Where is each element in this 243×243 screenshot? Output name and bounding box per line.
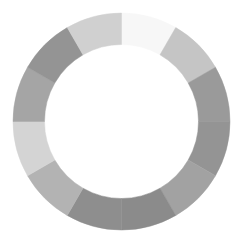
- segmented-ring: [0, 0, 243, 243]
